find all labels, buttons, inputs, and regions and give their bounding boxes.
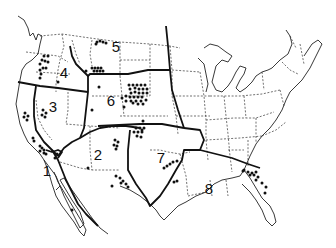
- location-dot: [264, 192, 267, 195]
- location-dot: [163, 167, 166, 170]
- state-boundaries: [26, 34, 304, 196]
- location-dot: [128, 84, 131, 87]
- location-dot: [39, 150, 42, 153]
- location-dot: [115, 148, 118, 151]
- gulf-coast: [120, 170, 276, 226]
- location-dot: [116, 145, 119, 148]
- location-dot: [135, 127, 138, 130]
- location-dot: [23, 116, 26, 119]
- location-dot: [27, 115, 30, 118]
- location-dot: [140, 84, 143, 87]
- location-dot: [113, 144, 116, 147]
- location-dot: [91, 67, 94, 70]
- location-dot: [56, 153, 59, 156]
- location-dot: [26, 119, 29, 122]
- location-dot: [119, 177, 122, 180]
- location-dot: [136, 135, 139, 138]
- location-dot: [45, 67, 48, 70]
- us-regions-map: 12345678: [0, 0, 336, 248]
- location-dot: [44, 116, 47, 119]
- northern-border: [40, 34, 180, 48]
- location-dot: [146, 88, 149, 91]
- location-dot: [125, 100, 128, 103]
- location-dot: [140, 136, 143, 139]
- location-dot: [253, 174, 256, 177]
- location-dot: [247, 171, 250, 174]
- region-labels: 12345678: [43, 38, 213, 197]
- location-dot: [95, 43, 98, 46]
- region-label-3: 3: [49, 98, 57, 115]
- location-dot: [129, 88, 132, 91]
- location-dot: [39, 63, 42, 66]
- location-dot: [85, 70, 88, 73]
- location-dot: [93, 70, 96, 73]
- location-dot: [121, 97, 124, 100]
- location-dot: [169, 163, 172, 166]
- location-dot: [105, 42, 108, 45]
- location-dot: [115, 175, 118, 178]
- location-dot: [255, 171, 258, 174]
- location-dot: [172, 161, 175, 164]
- location-dot: [144, 84, 147, 87]
- location-dot: [176, 160, 179, 163]
- great-lakes: [198, 30, 292, 92]
- location-dot: [39, 77, 42, 80]
- location-dot: [265, 186, 268, 189]
- location-dot: [40, 73, 43, 76]
- location-dot: [47, 61, 50, 64]
- location-dot: [123, 106, 126, 109]
- location-dot: [134, 91, 137, 94]
- location-dot: [43, 149, 46, 152]
- region-label-1: 1: [43, 162, 51, 179]
- location-dot: [176, 180, 179, 183]
- location-dot: [130, 92, 133, 95]
- location-dot: [173, 181, 176, 184]
- location-dot: [111, 185, 114, 188]
- location-dot: [94, 67, 97, 70]
- location-dot: [249, 174, 252, 177]
- location-dot: [138, 88, 141, 91]
- location-dot: [255, 179, 258, 182]
- region-label-6: 6: [107, 92, 115, 109]
- location-dot: [71, 209, 74, 212]
- location-dot: [142, 103, 145, 106]
- location-dot: [32, 137, 35, 140]
- location-dot: [132, 84, 135, 87]
- location-dot: [137, 131, 140, 134]
- location-dot: [120, 182, 123, 185]
- location-dot: [114, 139, 117, 142]
- location-dot: [146, 92, 149, 95]
- location-dot: [42, 67, 45, 70]
- region-label-5: 5: [112, 38, 120, 55]
- location-dot: [99, 70, 102, 73]
- location-dot: [133, 96, 136, 99]
- location-dot: [41, 59, 44, 62]
- location-dot: [125, 95, 128, 98]
- location-dot: [166, 165, 169, 168]
- region-label-4: 4: [60, 64, 68, 81]
- location-dot: [138, 92, 141, 95]
- location-dot: [87, 167, 90, 170]
- location-dot: [33, 140, 36, 143]
- location-dot: [47, 55, 50, 58]
- region-boundaries: [18, 26, 260, 226]
- region-label-7: 7: [157, 149, 165, 166]
- location-dot: [125, 183, 128, 186]
- location-dot: [44, 60, 47, 63]
- location-dot: [141, 129, 144, 132]
- location-dot: [142, 92, 145, 95]
- location-dot: [141, 96, 144, 99]
- atlantic-coast: [244, 40, 322, 170]
- location-dot: [127, 186, 130, 189]
- location-dot: [132, 102, 135, 105]
- location-dot: [129, 96, 132, 99]
- location-dot: [136, 84, 139, 87]
- location-dot: [257, 176, 260, 179]
- location-dot: [45, 112, 48, 115]
- location-dot: [243, 169, 246, 172]
- location-dot: [137, 103, 140, 106]
- location-dot: [24, 112, 27, 115]
- location-dot: [42, 109, 45, 112]
- location-dot: [142, 120, 145, 123]
- location-dot: [142, 88, 145, 91]
